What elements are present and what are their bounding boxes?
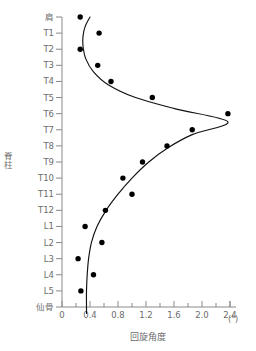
rotation-angle-spine-chart: 脊柱 肩T1T2T3T4T5T6T7T8T9T10T11T12L1L2L3L4L… bbox=[0, 0, 256, 351]
y-axis-tick-label: T1 bbox=[42, 28, 54, 38]
data-points bbox=[75, 14, 230, 293]
data-point bbox=[91, 272, 96, 277]
data-point bbox=[120, 175, 125, 180]
data-point bbox=[95, 63, 100, 68]
y-axis-tick-label: T10 bbox=[37, 173, 54, 183]
y-axis-tick-label: 仙骨 bbox=[36, 302, 54, 312]
y-axis-tick-label: L4 bbox=[44, 270, 54, 280]
x-axis-tick-label: 0.8 bbox=[111, 310, 125, 320]
y-axis-tick-label: T12 bbox=[37, 205, 54, 215]
y-axis-tick-label: T8 bbox=[42, 141, 54, 151]
y-axis-tick-label: T4 bbox=[42, 76, 54, 86]
y-axis-tick-label: L3 bbox=[44, 254, 54, 264]
y-axis-tick-label: T7 bbox=[42, 125, 54, 135]
data-point bbox=[99, 240, 104, 245]
data-point bbox=[82, 224, 87, 229]
y-axis-tick-label: T11 bbox=[37, 189, 54, 199]
x-axis-unit-label: (°) bbox=[228, 315, 238, 324]
y-axis-tick-label: T5 bbox=[42, 93, 54, 103]
data-point bbox=[78, 47, 83, 52]
data-point bbox=[108, 79, 113, 84]
data-point bbox=[78, 288, 83, 293]
y-axis-title-char: 柱 bbox=[4, 161, 13, 170]
y-axis-tick-label: T6 bbox=[42, 109, 54, 119]
data-point bbox=[164, 143, 169, 148]
data-point bbox=[96, 30, 101, 35]
y-axis-tick-label: L5 bbox=[44, 286, 54, 296]
data-point bbox=[103, 208, 108, 213]
y-axis-tick-label: T3 bbox=[42, 60, 54, 70]
y-axis-tick-label: L1 bbox=[44, 221, 54, 231]
x-axis-tick-label: 2.0 bbox=[195, 310, 209, 320]
x-axis-title: 回旋角度 bbox=[130, 331, 166, 342]
x-axis-tick-labels: 00.40.81.21.62.02.4 bbox=[59, 310, 236, 320]
y-axis-tick-labels: 肩T1T2T3T4T5T6T7T8T9T10T11T12L1L2L3L4L5仙骨 bbox=[36, 12, 54, 312]
data-point bbox=[190, 127, 195, 132]
y-axis-title: 脊柱 bbox=[4, 152, 13, 169]
data-point bbox=[150, 95, 155, 100]
data-point bbox=[78, 14, 83, 19]
x-axis-tick-label: 1.6 bbox=[167, 310, 181, 320]
fitted-curve bbox=[83, 17, 228, 313]
data-point bbox=[75, 256, 80, 261]
x-axis-tick-label: 0 bbox=[59, 310, 64, 320]
data-point bbox=[140, 159, 145, 164]
chart-plot-area: 肩T1T2T3T4T5T6T7T8T9T10T11T12L1L2L3L4L5仙骨… bbox=[0, 0, 256, 351]
y-axis-tick-label: 肩 bbox=[45, 12, 54, 22]
x-axis-ticks bbox=[62, 301, 230, 307]
data-point bbox=[225, 111, 230, 116]
y-axis-ticks bbox=[56, 17, 62, 307]
y-axis-tick-label: T9 bbox=[42, 157, 54, 167]
data-point bbox=[129, 192, 134, 197]
x-axis-tick-label: 1.2 bbox=[139, 310, 153, 320]
y-axis-tick-label: T2 bbox=[42, 44, 54, 54]
y-axis-tick-label: L2 bbox=[44, 238, 54, 248]
x-axis-tick-label: 0.4 bbox=[83, 310, 97, 320]
